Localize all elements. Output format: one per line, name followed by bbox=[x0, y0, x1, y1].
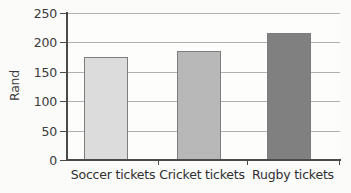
x-tick-mark-3 bbox=[339, 161, 340, 165]
y-tick-label-200: 200 bbox=[17, 35, 57, 50]
y-tick-mark-50 bbox=[60, 131, 67, 132]
x-category-label-soccer-tickets: Soccer tickets bbox=[68, 167, 158, 182]
y-tick-mark-150 bbox=[60, 72, 67, 73]
gridline-250 bbox=[68, 13, 340, 14]
y-tick-label-0: 0 bbox=[17, 153, 57, 168]
y-axis-title: Rand bbox=[7, 56, 22, 116]
bar-soccer-tickets bbox=[84, 57, 128, 161]
bar-chart: 250 200 150 100 50 0 Rand Soccer tickets… bbox=[0, 0, 351, 193]
y-tick-label-150: 150 bbox=[17, 65, 57, 80]
y-tick-mark-200 bbox=[60, 42, 67, 43]
x-axis-line bbox=[66, 159, 341, 161]
y-tick-label-100: 100 bbox=[17, 94, 57, 109]
bar-rugby-tickets bbox=[267, 33, 311, 161]
bar-chart-screenshot: 250 200 150 100 50 0 Rand Soccer tickets… bbox=[0, 0, 351, 193]
y-tick-mark-100 bbox=[60, 101, 67, 102]
y-tick-label-50: 50 bbox=[17, 124, 57, 139]
bar-cricket-tickets bbox=[177, 51, 221, 161]
y-tick-mark-250 bbox=[60, 13, 67, 14]
y-tick-mark-0 bbox=[60, 160, 67, 161]
x-tick-mark-1 bbox=[158, 161, 159, 165]
y-tick-label-250: 250 bbox=[17, 6, 57, 21]
x-category-label-rugby-tickets: Rugby tickets bbox=[248, 167, 338, 182]
x-tick-mark-2 bbox=[247, 161, 248, 165]
y-axis-line bbox=[66, 12, 68, 161]
x-category-label-cricket-tickets: Cricket tickets bbox=[156, 167, 248, 182]
